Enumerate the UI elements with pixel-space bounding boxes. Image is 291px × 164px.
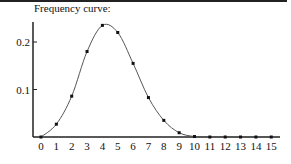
x-tick-label: 12: [220, 140, 231, 152]
data-point-marker: [132, 62, 135, 65]
x-tick-label: 11: [205, 140, 216, 152]
y-axis-ticks: 0.10.2: [16, 36, 37, 96]
data-point-marker: [270, 136, 273, 139]
x-tick-label: 4: [100, 140, 106, 152]
data-point-marker: [239, 136, 242, 139]
x-tick-label: 0: [38, 140, 44, 152]
x-tick-label: 8: [161, 140, 167, 152]
data-point-marker: [86, 50, 89, 53]
x-tick-label: 5: [115, 140, 121, 152]
x-tick-label: 6: [130, 140, 136, 152]
x-tick-label: 7: [146, 140, 152, 152]
x-axis-ticks: 0123456789101112131415: [38, 140, 277, 152]
frequency-chart: 0.10.2 0123456789101112131415: [0, 0, 291, 164]
data-point-marker: [224, 136, 227, 139]
y-tick-label: 0.1: [16, 84, 30, 96]
x-tick-label: 2: [69, 140, 75, 152]
data-point-marker: [162, 119, 165, 122]
data-point-marker: [254, 136, 257, 139]
x-tick-label: 9: [176, 140, 182, 152]
data-point-marker: [178, 131, 181, 134]
x-tick-label: 14: [250, 140, 262, 152]
x-tick-label: 1: [54, 140, 60, 152]
data-point-marker: [55, 123, 58, 126]
data-points: [40, 24, 273, 139]
x-tick-label: 15: [266, 140, 278, 152]
data-point-marker: [70, 95, 73, 98]
frequency-curve: [41, 24, 271, 137]
x-tick-label: 13: [235, 140, 247, 152]
data-point-marker: [40, 136, 43, 139]
data-point-marker: [208, 136, 211, 139]
y-tick-label: 0.2: [16, 36, 30, 48]
x-tick-label: 3: [84, 140, 90, 152]
data-point-marker: [101, 24, 104, 27]
x-tick-label: 10: [189, 140, 201, 152]
data-point-marker: [193, 135, 196, 138]
data-point-marker: [116, 31, 119, 34]
axes: [33, 22, 280, 137]
data-point-marker: [147, 96, 150, 99]
